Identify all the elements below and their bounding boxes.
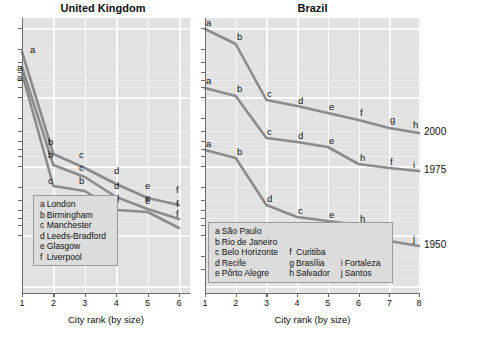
uk-point-label-1950-e: e bbox=[145, 196, 150, 206]
uk-point-label-1950-c: c bbox=[48, 176, 53, 186]
brazil-year-label-1950: 1950 bbox=[424, 239, 446, 250]
br-point-label-1950-c: c bbox=[298, 206, 303, 216]
br-x-tick-label: 4 bbox=[287, 298, 307, 308]
brazil-legend-table: a São Paulo b Rio de Janeiro c bbox=[211, 226, 388, 279]
brazil-panel-title: Brazil bbox=[205, 2, 420, 14]
br-y-tick bbox=[201, 187, 205, 188]
br-point-label-2000-f: f bbox=[360, 108, 363, 118]
br-x-tick bbox=[297, 293, 298, 297]
uk-legend-name: Liverpool bbox=[47, 252, 113, 263]
br-x-tick bbox=[205, 293, 206, 297]
br-point-label-2000-d: d bbox=[298, 96, 303, 106]
brazil-legend-row: b Rio de Janeiro bbox=[211, 237, 388, 248]
brazil-legend: a São Paulo b Rio de Janeiro c bbox=[208, 222, 393, 283]
uk-x-tick-label: 5 bbox=[138, 298, 158, 308]
br-legend-key: d bbox=[211, 258, 222, 269]
uk-x-tick bbox=[53, 293, 54, 297]
uk-legend-row: a London bbox=[36, 199, 113, 210]
br-y-tick bbox=[201, 210, 205, 211]
uk-x-tick bbox=[116, 293, 117, 297]
br-point-label-1975-b: b bbox=[237, 84, 242, 94]
uk-line-2000 bbox=[22, 52, 179, 205]
br-legend-key: i bbox=[337, 258, 345, 269]
br-legend-name: Salvador bbox=[296, 268, 337, 279]
br-point-label-2000-h: h bbox=[413, 120, 418, 130]
uk-legend-key: c bbox=[36, 220, 47, 231]
uk-point-label-2000-d: d bbox=[114, 166, 119, 176]
brazil-legend-row: c Belo Horizonte f Curitiba bbox=[211, 247, 388, 258]
br-y-tick bbox=[201, 28, 205, 29]
uk-x-tick-label: 3 bbox=[75, 298, 95, 308]
br-x-tick bbox=[359, 293, 360, 297]
br-legend-name bbox=[296, 237, 337, 248]
uk-legend-row: b Birmingham bbox=[36, 210, 113, 221]
uk-x-tick bbox=[148, 293, 149, 297]
br-x-tick bbox=[266, 293, 267, 297]
br-point-label-1950-d: d bbox=[267, 194, 272, 204]
uk-x-tick bbox=[179, 293, 180, 297]
br-x-tick-label: 1 bbox=[195, 298, 215, 308]
uk-point-label-1950-f: f bbox=[176, 209, 179, 219]
br-point-label-1950-a: a bbox=[206, 139, 211, 149]
uk-y-tick bbox=[18, 210, 22, 211]
br-x-tick-label: 5 bbox=[318, 298, 338, 308]
br-y-tick bbox=[201, 225, 205, 226]
br-x-tick-label: 8 bbox=[409, 298, 429, 308]
uk-x-tick-label: 1 bbox=[12, 298, 32, 308]
br-legend-name bbox=[296, 226, 337, 237]
br-legend-key bbox=[285, 237, 296, 248]
br-y-tick bbox=[201, 72, 205, 73]
br-line-2000 bbox=[205, 29, 419, 133]
br-point-label-1950-b: b bbox=[237, 147, 242, 157]
br-x-tick bbox=[389, 293, 390, 297]
br-point-label-1975-d: d bbox=[298, 131, 303, 141]
br-legend-name: Fortaleza bbox=[345, 258, 388, 269]
br-y-tick bbox=[201, 200, 205, 201]
uk-y-tick bbox=[18, 187, 22, 188]
uk-legend-name: Leeds-Bradford bbox=[47, 231, 113, 242]
uk-point-label-1975-b: b bbox=[48, 150, 53, 160]
brazil-legend-row: d Recife g Brasília i Fortaleza bbox=[211, 258, 388, 269]
br-point-label-2000-e: e bbox=[329, 102, 334, 112]
uk-x-axis bbox=[22, 293, 190, 294]
br-legend-key: c bbox=[211, 247, 222, 258]
uk-legend-name: Glasgow bbox=[47, 241, 113, 252]
uk-point-label-2000-a: a bbox=[30, 45, 35, 55]
br-y-tick bbox=[201, 97, 205, 98]
br-legend-key bbox=[337, 237, 345, 248]
br-legend-name: Pôrto Alegre bbox=[222, 268, 285, 279]
uk-x-tick-label: 4 bbox=[106, 298, 126, 308]
uk-x-tick bbox=[22, 293, 23, 297]
br-y-tick bbox=[201, 49, 205, 50]
br-point-label-1950-j: j bbox=[413, 234, 415, 244]
br-legend-key: f bbox=[285, 247, 296, 258]
br-legend-key: h bbox=[285, 268, 296, 279]
uk-y-tick bbox=[18, 87, 22, 88]
uk-y-tick bbox=[18, 200, 22, 201]
brazil-year-label-1975: 1975 bbox=[424, 164, 446, 175]
uk-y-tick bbox=[18, 49, 22, 50]
uk-legend: a London b Birmingham c Manchester d Lee… bbox=[33, 195, 118, 266]
uk-point-label-2000-e: e bbox=[145, 181, 150, 191]
uk-y-tick bbox=[18, 218, 22, 219]
uk-point-label-1975-d: d bbox=[114, 181, 119, 191]
brazil-legend-row: e Pôrto Alegre h Salvador j Santos bbox=[211, 268, 388, 279]
br-point-label-1975-f: f bbox=[390, 157, 393, 167]
uk-y-tick bbox=[18, 156, 22, 157]
br-point-label-1975-e: e bbox=[329, 136, 334, 146]
uk-x-axis-title: City rank (by size) bbox=[22, 314, 190, 325]
figure-root: United Kingdom bbox=[0, 0, 485, 338]
br-y-tick bbox=[201, 62, 205, 63]
br-point-label-2000-g: g bbox=[390, 115, 395, 125]
uk-point-label-2000-f: f bbox=[176, 185, 179, 195]
uk-y-tick bbox=[18, 141, 22, 142]
br-legend-key: g bbox=[285, 258, 296, 269]
br-point-label-1950-e: e bbox=[329, 210, 334, 220]
br-legend-key: a bbox=[211, 226, 222, 237]
br-y-tick bbox=[201, 80, 205, 81]
br-legend-key: b bbox=[211, 237, 222, 248]
uk-legend-key: e bbox=[36, 241, 47, 252]
br-y-tick bbox=[201, 87, 205, 88]
br-x-tick bbox=[328, 293, 329, 297]
br-legend-name: Recife bbox=[222, 258, 285, 269]
